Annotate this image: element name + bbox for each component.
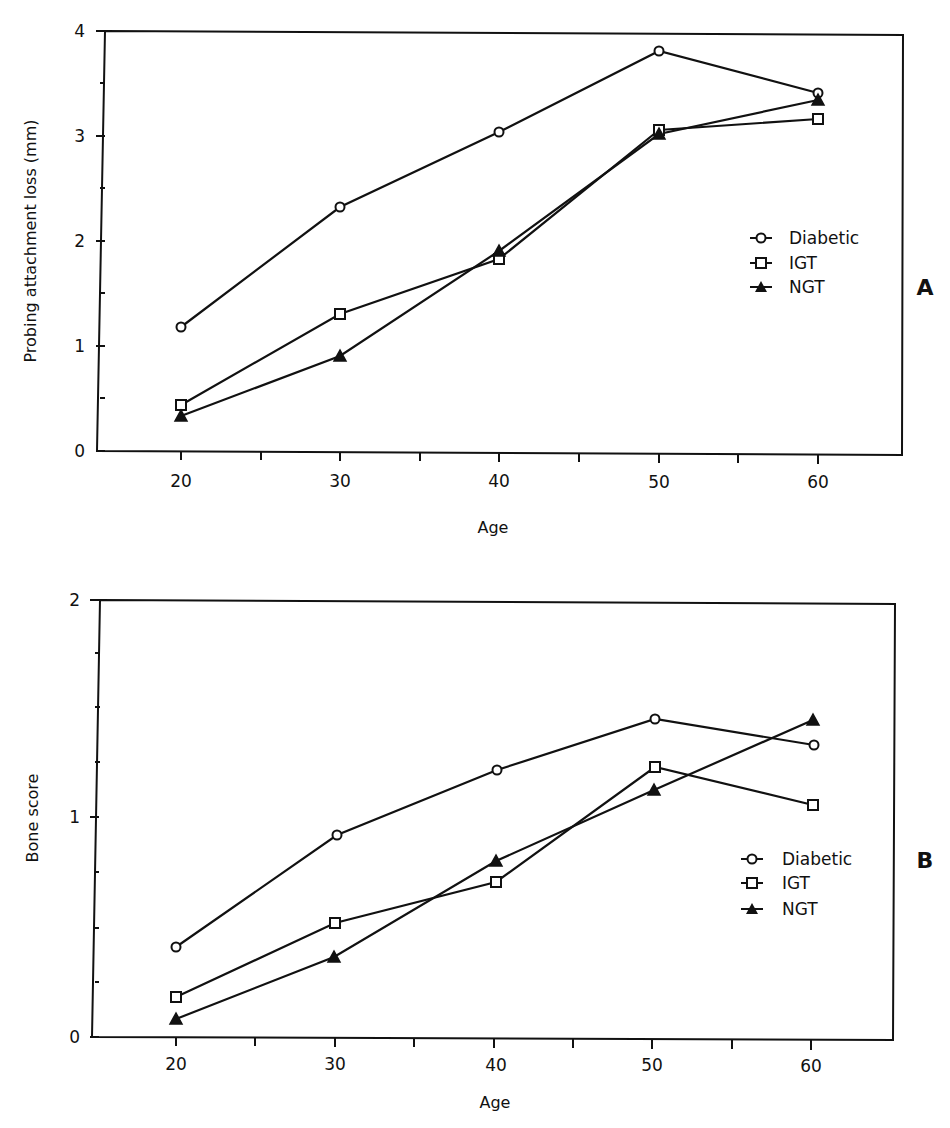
legend-a: Diabetic IGT NGT (750, 228, 859, 297)
svg-text:20: 20 (170, 471, 192, 491)
svg-text:NGT: NGT (789, 277, 825, 297)
series-line-diabetic-a (181, 51, 818, 327)
svg-text:1: 1 (69, 807, 80, 827)
svg-text:NGT: NGT (782, 899, 818, 919)
plot-frame-a (97, 31, 903, 455)
x-tick-labels-a: 20 30 40 50 60 (170, 471, 829, 492)
legend-item-ngt-b: NGT (741, 899, 818, 919)
series-line-diabetic-b (176, 719, 814, 947)
chart-panel-b: 0 1 2 20 30 40 50 60 Age Bone score (23, 590, 933, 1112)
panel-letter-b: B (917, 848, 934, 873)
svg-text:30: 30 (329, 471, 351, 491)
open-circle-marker-icon (748, 855, 757, 864)
legend-b: Diabetic IGT NGT (741, 849, 852, 919)
y-tick-labels-a: 0 1 2 3 4 (74, 21, 85, 461)
series-markers-diabetic-b (172, 715, 819, 952)
svg-text:IGT: IGT (782, 873, 811, 893)
svg-text:Diabetic: Diabetic (789, 228, 859, 248)
legend-item-diabetic-b: Diabetic (741, 849, 852, 869)
x-axis-label-b: Age (480, 1093, 511, 1112)
legend-item-igt-b: IGT (741, 873, 811, 893)
x-axis-label-a: Age (478, 518, 509, 537)
svg-text:60: 60 (807, 472, 829, 492)
open-square-marker-icon (747, 878, 757, 888)
y-tick-labels-b: 0 1 2 (69, 590, 80, 1047)
svg-text:3: 3 (74, 126, 85, 146)
chart-panel-a: 0 1 2 3 4 20 30 40 50 60 Age Probing att… (21, 21, 934, 537)
svg-text:30: 30 (324, 1054, 346, 1074)
legend-item-diabetic-a: Diabetic (750, 228, 859, 248)
open-circle-marker-icon (757, 234, 766, 243)
svg-text:2: 2 (74, 231, 85, 251)
x-tick-labels-b: 20 30 40 50 60 (165, 1054, 822, 1076)
svg-text:50: 50 (648, 472, 670, 492)
panel-letter-a: A (916, 275, 933, 300)
svg-text:40: 40 (488, 471, 510, 491)
y-axis-label-b: Bone score (23, 774, 42, 863)
svg-text:2: 2 (69, 590, 80, 610)
legend-item-ngt-a: NGT (750, 277, 825, 297)
svg-text:IGT: IGT (789, 253, 818, 273)
svg-text:20: 20 (165, 1054, 187, 1074)
svg-text:0: 0 (74, 441, 85, 461)
figure: 0 1 2 3 4 20 30 40 50 60 Age Probing att… (0, 0, 950, 1128)
svg-text:4: 4 (74, 21, 85, 41)
legend-item-igt-a: IGT (750, 253, 818, 273)
svg-text:60: 60 (800, 1056, 822, 1076)
series-markers-igt-a (176, 114, 823, 410)
plot-frame-b (92, 600, 895, 1040)
svg-text:1: 1 (74, 336, 85, 356)
series-line-ngt-b (176, 720, 813, 1019)
svg-text:Diabetic: Diabetic (782, 849, 852, 869)
svg-text:40: 40 (485, 1055, 507, 1075)
y-axis-label-a: Probing attachment loss (mm) (21, 119, 40, 362)
open-square-marker-icon (756, 258, 766, 268)
series-markers-diabetic-a (177, 47, 823, 332)
svg-text:50: 50 (641, 1055, 663, 1075)
svg-text:0: 0 (69, 1027, 80, 1047)
